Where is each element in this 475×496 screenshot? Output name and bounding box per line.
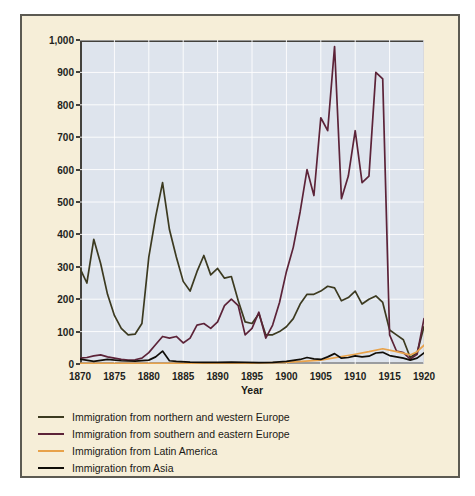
- chart-legend: Immigration from northern and western Eu…: [38, 408, 448, 476]
- y-axis-tick-label: 700: [57, 132, 74, 143]
- x-axis-tick-label: 1895: [241, 371, 263, 382]
- y-axis-tick-mark: [76, 266, 80, 268]
- y-axis-tick-mark: [76, 169, 80, 171]
- x-axis-tick-label: 1905: [310, 371, 332, 382]
- x-axis-tick-label: 1910: [344, 371, 366, 382]
- legend-swatch-icon: [38, 467, 64, 469]
- y-axis-tick-mark: [76, 39, 80, 41]
- y-axis-tick-label: 400: [57, 229, 74, 240]
- x-axis-tick-label: 1890: [206, 371, 228, 382]
- x-axis-tick-label: 1880: [138, 371, 160, 382]
- chart-figure: Immigrants (thousands) 01002003004005006…: [20, 14, 460, 478]
- y-axis-tick-label: 200: [57, 294, 74, 305]
- x-axis-tick-label: 1875: [103, 371, 125, 382]
- legend-item[interactable]: Immigration from northern and western Eu…: [38, 408, 448, 425]
- y-axis-tick-label: 600: [57, 164, 74, 175]
- y-axis-tick-label: 100: [57, 326, 74, 337]
- y-axis-tick-label: 500: [57, 197, 74, 208]
- y-axis-tick-mark: [76, 201, 80, 203]
- x-axis-tick-label: 1920: [413, 371, 435, 382]
- legend-item[interactable]: Immigration from Asia: [38, 459, 448, 476]
- y-axis-tick-label: 900: [57, 67, 74, 78]
- y-axis-tick-mark: [76, 71, 80, 73]
- y-axis-tick-label: 300: [57, 261, 74, 272]
- x-axis-title: Year: [80, 384, 424, 396]
- plot-wrapper: 01002003004005006007008009001,000 187018…: [80, 40, 424, 364]
- y-axis-tick-label: 1,000: [49, 35, 74, 46]
- legend-item-label: Immigration from northern and western Eu…: [72, 411, 290, 423]
- y-axis-tick-mark: [76, 331, 80, 333]
- x-axis-tick-label: 1900: [275, 371, 297, 382]
- y-axis-tick-mark: [76, 233, 80, 235]
- legend-swatch-icon: [38, 450, 64, 452]
- legend-item[interactable]: Immigration from Latin America: [38, 442, 448, 459]
- x-axis-tick-label: 1885: [172, 371, 194, 382]
- x-axis-tick-label: 1870: [69, 371, 91, 382]
- legend-item-label: Immigration from Latin America: [72, 445, 217, 457]
- x-axis-tick-label: 1915: [378, 371, 400, 382]
- legend-item[interactable]: Immigration from southern and eastern Eu…: [38, 425, 448, 442]
- y-axis-tick-mark: [76, 104, 80, 106]
- y-axis-tick-mark: [76, 136, 80, 138]
- legend-item-label: Immigration from southern and eastern Eu…: [72, 428, 290, 440]
- legend-swatch-icon: [38, 416, 64, 418]
- y-axis-tick-label: 0: [68, 359, 74, 370]
- legend-item-label: Immigration from Asia: [72, 462, 174, 474]
- legend-swatch-icon: [38, 433, 64, 435]
- chart-lines: [80, 40, 424, 364]
- y-axis-tick-label: 800: [57, 99, 74, 110]
- y-axis-tick-mark: [76, 298, 80, 300]
- y-axis-tick-mark: [76, 363, 80, 365]
